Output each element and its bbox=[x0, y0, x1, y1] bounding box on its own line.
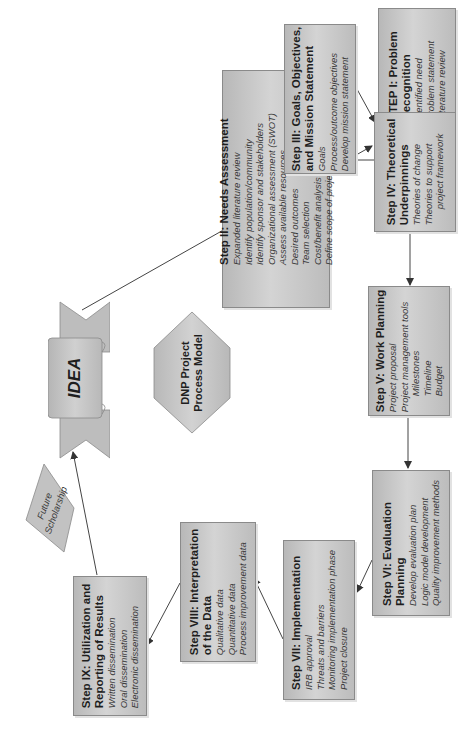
step8-item: Qualitative data bbox=[214, 529, 226, 656]
step8-item: Quantitative data bbox=[225, 529, 237, 656]
step6-item: Quality improvement methods bbox=[430, 480, 442, 606]
step5-item: Timeline bbox=[421, 290, 433, 412]
step6-content: Step VI: Evaluation Planning Develop eva… bbox=[381, 480, 442, 606]
center-label-line1: DNP Project bbox=[179, 334, 192, 412]
idea-label-wrap: IDEA bbox=[48, 338, 102, 418]
step3-item: Develop mission statement bbox=[339, 27, 351, 171]
step4-title: Step IV: Theoretical bbox=[385, 119, 398, 226]
step5-box: Step V: Work Planning Project proposal P… bbox=[368, 286, 450, 416]
step8-item: Process improvement data bbox=[237, 529, 249, 656]
step6-box: Step VI: Evaluation Planning Develop eva… bbox=[372, 470, 450, 616]
step5-content: Step V: Work Planning Project proposal P… bbox=[374, 290, 445, 412]
step8-box: Step VIII: Interpretation of the Data Qu… bbox=[180, 522, 256, 662]
step6-item: Develop evaluation plan bbox=[407, 480, 419, 606]
step1-title: STEP I: Problem bbox=[387, 31, 400, 120]
step5-item: Budget bbox=[433, 290, 445, 412]
future-scholarship-label: Future Scholarship bbox=[31, 481, 70, 536]
step8-title: Step VIII: Interpretation bbox=[188, 529, 201, 656]
step7-title: Step VII: Implementation bbox=[290, 550, 303, 690]
step9-item: Written dissemination bbox=[106, 584, 118, 709]
step5-item: Project management tools bbox=[398, 290, 410, 412]
step3-item: Goals bbox=[316, 27, 328, 171]
step7-item: Threats and barriers bbox=[314, 550, 326, 690]
arrow-step7-to-step8 bbox=[254, 578, 283, 639]
idea-label: IDEA bbox=[65, 358, 85, 399]
step7-item: Monitoring implementation phase bbox=[326, 550, 338, 690]
step4-box: Step IV: Theoretical Underpinnings Theor… bbox=[374, 112, 456, 232]
future-scholarship-wrap: Future Scholarship bbox=[24, 462, 76, 554]
step5-item: Milestones bbox=[410, 290, 422, 412]
step3-title: Step III: Goals, Objectives, bbox=[290, 27, 303, 171]
step4-item: Theories of change bbox=[411, 119, 423, 226]
step6-title: Planning bbox=[394, 480, 407, 606]
step1-item: Identified need bbox=[413, 31, 425, 120]
step1-item: Problem statement bbox=[424, 31, 436, 120]
arrow-step6-to-step7 bbox=[357, 560, 372, 592]
step4-title: Underpinnings bbox=[398, 119, 411, 226]
step3-content: Step III: Goals, Objectives, and Mission… bbox=[290, 27, 351, 171]
step8-title: of the Data bbox=[201, 529, 214, 656]
step9-content: Step IX: Utilization and Reporting of Re… bbox=[80, 584, 141, 709]
step9-item: Oral dissemination bbox=[117, 584, 129, 709]
step7-content: Step VII: Implementation IRB approval Th… bbox=[290, 550, 349, 690]
step6-item: Logic model development bbox=[418, 480, 430, 606]
arrow-step8-to-step9 bbox=[147, 583, 180, 645]
center-label: DNP Project Process Model bbox=[179, 334, 205, 412]
step4-item: Theories to support bbox=[422, 119, 434, 226]
arrow-step9-to-idea bbox=[73, 452, 97, 575]
step5-item: Project proposal bbox=[387, 290, 399, 412]
step7-box: Step VII: Implementation IRB approval Th… bbox=[283, 540, 355, 700]
step2-title: Step II: Needs Assessment bbox=[218, 113, 231, 265]
step3-title: and Mission Statement bbox=[303, 27, 316, 171]
step1-content: STEP I: Problem Recognition Identified n… bbox=[387, 31, 448, 120]
step9-title: Reporting of Results bbox=[93, 584, 106, 709]
step3-box: Step III: Goals, Objectives, and Mission… bbox=[284, 24, 356, 174]
step1-item: Literature review bbox=[436, 31, 448, 120]
step9-item: Electronic dissemination bbox=[129, 584, 141, 709]
step1-title: Recognition bbox=[400, 31, 413, 120]
step2-item: Identify population/community bbox=[242, 113, 254, 265]
step5-title: Step V: Work Planning bbox=[374, 290, 387, 412]
step2-item: Organizational assessment (SWOT) bbox=[265, 113, 277, 265]
step6-title: Step VI: Evaluation bbox=[381, 480, 394, 606]
step4-item: project framework bbox=[434, 119, 446, 226]
step7-item: IRB approval bbox=[303, 550, 315, 690]
center-label-wrap: DNP Project Process Model bbox=[152, 310, 232, 435]
step4-content: Step IV: Theoretical Underpinnings Theor… bbox=[385, 119, 446, 226]
step2-item: Identify sponsor and stakeholders bbox=[254, 113, 266, 265]
step7-item: Project closure bbox=[337, 550, 349, 690]
step9-box: Step IX: Utilization and Reporting of Re… bbox=[73, 576, 147, 716]
step9-title: Step IX: Utilization and bbox=[80, 584, 93, 709]
step3-item: Process/outcome objectives bbox=[327, 27, 339, 171]
step2-item: Expanded literature review bbox=[231, 113, 243, 265]
step8-content: Step VIII: Interpretation of the Data Qu… bbox=[188, 529, 249, 656]
center-label-line2: Process Model bbox=[192, 334, 205, 412]
